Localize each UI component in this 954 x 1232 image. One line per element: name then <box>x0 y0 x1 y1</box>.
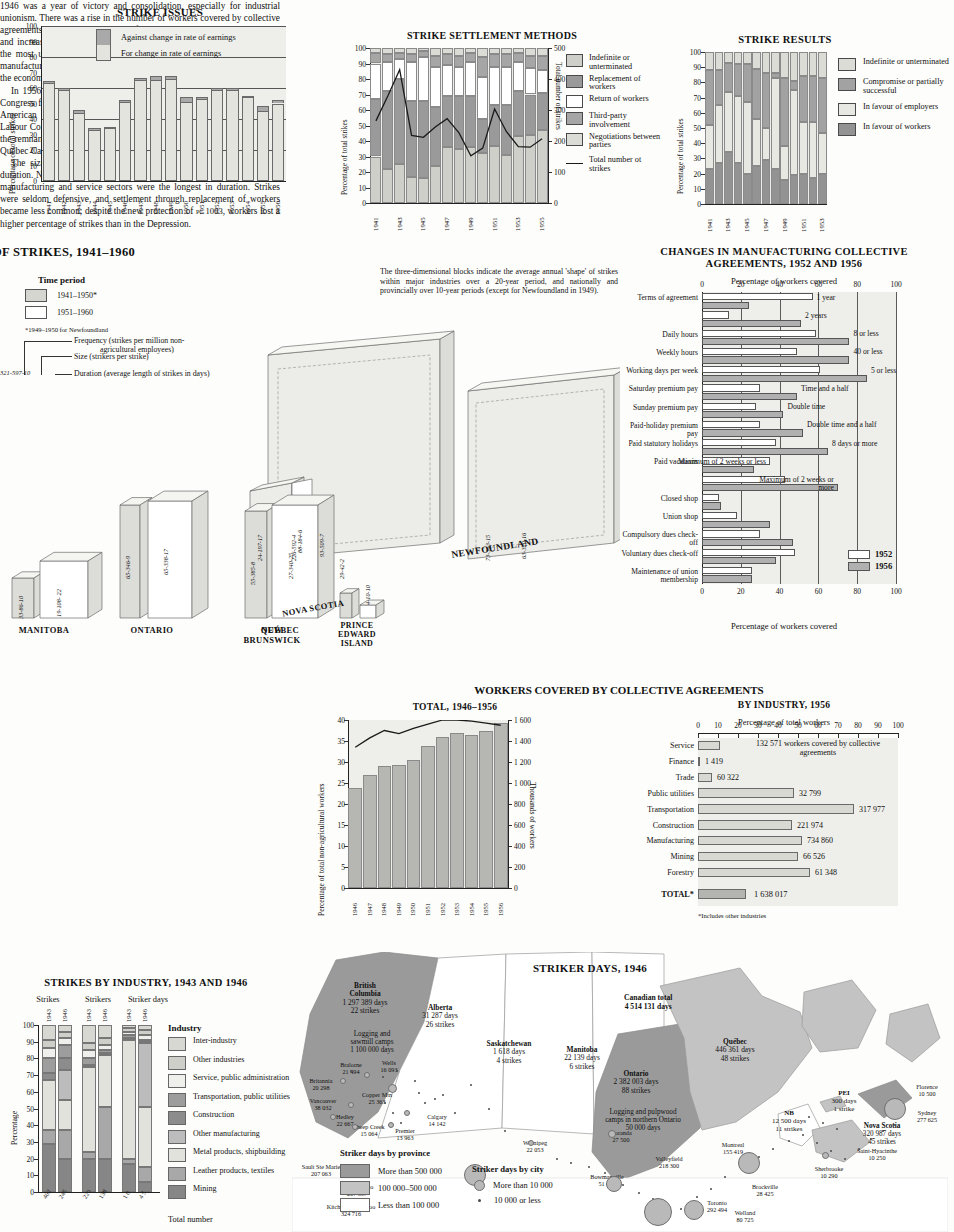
industry-label: Service <box>622 741 694 750</box>
bar-segment <box>743 52 752 64</box>
legend-item: Negotiations between parties <box>566 133 662 150</box>
legend-item: Replacement of workers <box>566 75 662 92</box>
y-tick: 30 <box>686 154 701 163</box>
x-tick: 1944 <box>91 185 99 215</box>
legend-item: Compromise or partially successful <box>838 78 950 96</box>
block-value-1951: 19-108- 22 <box>55 569 62 617</box>
strike-issues-title: STRIKE ISSUES <box>0 6 320 18</box>
map-note-bc-logging: Logging andsawmill camps1 100 000 days <box>324 1030 420 1054</box>
y-tick: 80 <box>19 1054 34 1063</box>
legend-item: 100 000–500 000 <box>340 1181 442 1195</box>
legend-item: Other manufacturing <box>168 1130 292 1144</box>
industry-bar <box>698 820 792 830</box>
bar-for-change <box>88 130 100 181</box>
province-label: NEW BRUNSWICK <box>240 625 304 645</box>
legend-item: Metal products, shipbuilding <box>168 1148 292 1162</box>
province-label: PRINCE EDWARD ISLAND <box>328 621 386 648</box>
block-face <box>192 491 208 618</box>
legend-item: Indefinite or unterminated <box>566 54 662 71</box>
legend-label: In favour of employers <box>863 103 938 112</box>
row-category-label: Maintenance of union membership <box>618 568 698 584</box>
bar-segment <box>98 1025 112 1038</box>
map-legend-city-heading: Striker days by city <box>472 1164 544 1174</box>
bar-against-change <box>180 97 192 102</box>
year-label: 1943 <box>85 998 92 1022</box>
bar-segment <box>752 52 761 69</box>
bar-segment <box>818 174 827 204</box>
bar-segment <box>809 178 818 204</box>
row-category-label: Weekly hours <box>618 349 698 357</box>
y-tick: 20 <box>19 1155 34 1164</box>
bar-segment <box>82 1159 96 1192</box>
legend-item: In favour of workers <box>838 123 950 136</box>
bar-segment <box>82 1043 96 1050</box>
y-tick: 10 <box>19 162 37 171</box>
legend-swatch <box>168 1037 186 1051</box>
bar-segment <box>715 70 724 105</box>
year-label: 1943 <box>125 998 132 1022</box>
y-tick-left: 25 <box>331 779 345 788</box>
city-label-florence: Florence10 500 <box>898 1084 954 1098</box>
legend-label: Replacement of workers <box>589 75 662 92</box>
y-tick: 10 <box>686 185 701 194</box>
settlement-ylabel-left: Percentage of total strikes <box>340 60 349 195</box>
legend-label: Negotiations between parties <box>589 133 662 150</box>
block-value-1941: 29-42-2 <box>338 535 345 579</box>
strike-issues-ylabel: Percentage of total strikes <box>8 44 17 194</box>
y-tick-left: 30 <box>350 153 366 162</box>
bar-segment <box>790 90 799 175</box>
city-label-brockville: Brockville28 425 <box>736 1184 794 1198</box>
year-label: 1946 <box>61 998 68 1022</box>
x-tick-bottom: 40 <box>771 587 789 596</box>
wci-footnote: *Includes other industries <box>698 912 766 919</box>
industry-value: 60 322 <box>717 773 739 782</box>
y-tick: 10 <box>19 1171 34 1180</box>
y-tick: 80 <box>686 78 701 87</box>
settlement-plot: 0102030405060708090100010020030040050019… <box>370 48 548 203</box>
legend-label: Other industries <box>193 1056 244 1064</box>
bar-segment <box>58 1045 72 1058</box>
x-tick-top: 100 <box>887 280 905 289</box>
map-city-circle <box>330 1114 336 1120</box>
bar-segment <box>809 52 818 76</box>
bar-1956 <box>702 466 754 473</box>
bar-segment <box>98 1055 112 1107</box>
bar-segment <box>752 69 761 119</box>
x-tick: 1950 <box>409 892 416 916</box>
mfg-title-line1: CHANGES IN MANUFACTURING COLLECTIVE <box>660 246 907 257</box>
y-tick: 100 <box>686 48 701 57</box>
canadian-total-value: 4 514 131 days <box>625 1002 672 1011</box>
results-plot: 0102030405060708090100194119431945194719… <box>705 52 827 204</box>
mfg-legend: 19521956 <box>848 549 892 573</box>
legend-box: Against change in rate of earningsFor ch… <box>96 29 286 61</box>
bar-segment <box>138 1107 152 1167</box>
bar-segment <box>122 1035 136 1038</box>
city-label-calgary: Calgary14 142 <box>408 1114 466 1128</box>
y-tick-right: 1 000 <box>514 779 540 788</box>
strike-issues-legend: Against change in rate of earningsFor ch… <box>96 29 286 61</box>
y-tick-right: 800 <box>514 800 540 809</box>
y-tick: 40 <box>19 115 37 124</box>
row-category-label: Sunday premium pay <box>618 404 698 412</box>
bar-segment <box>98 1045 112 1050</box>
bar-segment <box>138 1030 152 1035</box>
map-city-circle <box>364 1072 370 1078</box>
bar-for-change <box>134 80 146 181</box>
industry-label: Finance <box>622 757 694 766</box>
total-label: TOTAL* <box>622 890 694 899</box>
total-bar <box>698 889 746 899</box>
industry-label: Forestry <box>622 868 694 877</box>
bar-segment <box>138 1167 152 1182</box>
y-tick-right: 500 <box>554 44 574 53</box>
gridline <box>41 88 286 89</box>
y-tick-right: 0 <box>554 199 574 208</box>
x-tick: 1951 <box>424 892 431 916</box>
legend-item: 1952 <box>848 549 892 559</box>
legend-label: 10 000 or less <box>494 1196 541 1205</box>
y-tick-left: 70 <box>350 91 366 100</box>
x-tick-top: 20 <box>732 280 750 289</box>
bar-segment <box>82 1067 96 1152</box>
mfg-title: CHANGES IN MANUFACTURING COLLECTIVE AGRE… <box>620 246 948 271</box>
x-tick: 1943 <box>75 185 83 215</box>
sbi-total-label: Total number <box>168 1215 213 1224</box>
